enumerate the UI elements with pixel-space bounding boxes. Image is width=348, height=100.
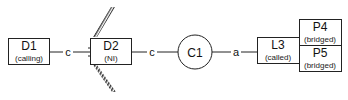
node-l3: L3 (called) (258, 38, 300, 64)
node-p5-label: P5 (313, 46, 328, 60)
node-d1-sublabel: (calling) (15, 54, 43, 63)
edge-c1-l3: a (212, 46, 257, 58)
node-c1-label: C1 (187, 46, 203, 60)
node-d2-label: D2 (103, 39, 119, 53)
call-diagram: c c a D1 (calling) D2 (NI) C1 L3 (called… (0, 0, 348, 100)
node-p4-label: P4 (313, 20, 328, 34)
node-l3-label: L3 (271, 38, 285, 52)
edge-d2-c1: c (131, 46, 178, 58)
node-p5-sublabel: (bridged) (304, 61, 336, 70)
barrier-hatch-top (93, 7, 115, 37)
edge-label-d1-d2: c (65, 46, 71, 58)
node-l3-sublabel: (called) (265, 53, 292, 62)
barrier-hatch-bottom (93, 65, 116, 92)
node-c1: C1 (178, 35, 212, 69)
edge-label-c1-l3: a (233, 46, 240, 58)
edge-label-d2-c1: c (149, 46, 155, 58)
node-p4-sublabel: (bridged) (304, 35, 336, 44)
node-p4: P4 (bridged) (300, 20, 342, 46)
node-d1-label: D1 (21, 39, 37, 53)
edge-d1-d2: c (49, 46, 90, 58)
node-d1: D1 (calling) (9, 39, 50, 65)
node-d2: D2 (NI) (91, 39, 132, 65)
node-d2-sublabel: (NI) (104, 54, 118, 63)
node-p5: P5 (bridged) (300, 46, 342, 72)
